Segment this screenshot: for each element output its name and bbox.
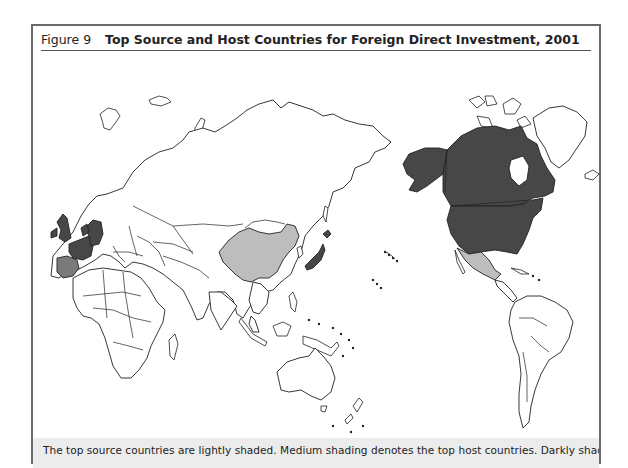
cuba bbox=[511, 268, 529, 274]
figure-title: Top Source and Host Countries for Foreig… bbox=[105, 32, 580, 47]
new-zealand bbox=[345, 398, 363, 424]
alaska bbox=[403, 148, 447, 192]
malay-peninsula bbox=[249, 316, 259, 332]
united-states bbox=[447, 198, 543, 254]
mexico bbox=[457, 248, 501, 280]
africa bbox=[73, 268, 165, 378]
united-kingdom bbox=[57, 214, 71, 242]
world-map bbox=[33, 56, 599, 438]
figure-header: Figure 9 Top Source and Host Countries f… bbox=[41, 28, 591, 51]
figure-frame: Figure 9 Top Source and Host Countries f… bbox=[31, 24, 601, 464]
franz-josef bbox=[149, 96, 171, 106]
ireland bbox=[51, 228, 57, 238]
iceland bbox=[585, 170, 599, 180]
tasmania bbox=[321, 406, 327, 412]
madagascar bbox=[169, 334, 178, 360]
figure-number: Figure 9 bbox=[41, 32, 91, 47]
japan bbox=[305, 244, 325, 270]
philippines bbox=[289, 292, 297, 312]
hokkaido bbox=[323, 230, 331, 238]
new-guinea bbox=[303, 336, 339, 356]
figure-caption: The top source countries are lightly sha… bbox=[33, 438, 599, 468]
borneo bbox=[273, 322, 291, 336]
spain bbox=[57, 256, 79, 278]
central-america bbox=[495, 280, 517, 302]
south-america bbox=[509, 296, 573, 428]
svalbard bbox=[100, 108, 120, 130]
arctic-islands bbox=[469, 96, 531, 128]
australia bbox=[277, 348, 335, 400]
